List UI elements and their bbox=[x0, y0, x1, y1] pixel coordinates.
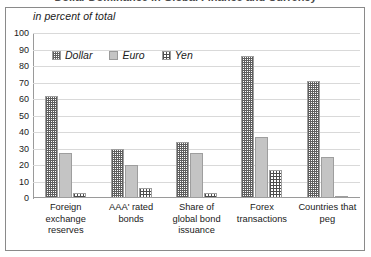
x-label-line: bonds bbox=[100, 214, 161, 226]
legend-item-euro[interactable]: Euro bbox=[109, 49, 144, 61]
x-label-line: reserves bbox=[35, 225, 96, 237]
legend-swatch-yen-icon bbox=[162, 51, 171, 60]
bar-euro-1 bbox=[125, 165, 138, 198]
y-tick-80: 80 bbox=[3, 61, 29, 71]
chart-title-text: Dollar Dominance in Global Finance and C… bbox=[54, 0, 316, 3]
y-tick-40: 40 bbox=[3, 127, 29, 137]
y-tick-10: 10 bbox=[3, 177, 29, 187]
y-tick-30: 30 bbox=[3, 144, 29, 154]
x-label-line: transactions bbox=[231, 214, 292, 226]
x-label-line: AAA' rated bbox=[100, 202, 161, 214]
chart-legend: DollarEuroYen bbox=[52, 49, 193, 61]
legend-swatch-euro-icon bbox=[109, 51, 118, 60]
x-label-4: Countries thatpeg bbox=[295, 202, 360, 250]
legend-label: Yen bbox=[175, 49, 193, 61]
gridline-100 bbox=[33, 33, 360, 34]
y-tick-70: 70 bbox=[3, 78, 29, 88]
bar-euro-0 bbox=[59, 153, 72, 198]
bar-euro-3 bbox=[255, 137, 268, 198]
x-label-line: exchange bbox=[35, 214, 96, 226]
legend-item-dollar[interactable]: Dollar bbox=[52, 49, 92, 61]
gridline-80 bbox=[33, 66, 360, 67]
x-label-1: AAA' ratedbonds bbox=[98, 202, 163, 250]
x-label-line: Share of bbox=[166, 202, 227, 214]
chart-title-clipped: Dollar Dominance in Global Finance and C… bbox=[0, 0, 371, 6]
bar-euro-4 bbox=[321, 157, 334, 198]
chart-subtitle: in percent of total bbox=[33, 10, 115, 22]
y-tick-60: 60 bbox=[3, 94, 29, 104]
x-label-3: Forextransactions bbox=[229, 202, 294, 250]
bar-dollar-1 bbox=[111, 149, 124, 199]
bar-yen-4 bbox=[335, 196, 348, 198]
x-label-line: Foreign bbox=[35, 202, 96, 214]
y-tick-50: 50 bbox=[3, 111, 29, 121]
legend-item-yen[interactable]: Yen bbox=[162, 49, 193, 61]
y-tick-20: 20 bbox=[3, 160, 29, 170]
bar-yen-2 bbox=[204, 193, 217, 198]
legend-label: Dollar bbox=[65, 49, 92, 61]
x-label-2: Share ofglobal bondissuance bbox=[164, 202, 229, 250]
bar-yen-3 bbox=[269, 170, 282, 198]
x-label-line: Countries that bbox=[297, 202, 358, 214]
x-label-line: Forex bbox=[231, 202, 292, 214]
x-label-0: Foreignexchangereserves bbox=[33, 202, 98, 250]
bar-dollar-3 bbox=[241, 56, 254, 198]
x-axis-labels: ForeignexchangereservesAAA' ratedbondsSh… bbox=[33, 202, 360, 250]
chart-figure: Dollar Dominance in Global Finance and C… bbox=[0, 0, 371, 257]
bar-dollar-2 bbox=[176, 142, 189, 198]
y-axis: 1009080706050403020100 bbox=[0, 33, 29, 199]
y-tick-90: 90 bbox=[3, 45, 29, 55]
x-label-line: global bond bbox=[166, 214, 227, 226]
x-label-line: peg bbox=[297, 214, 358, 226]
y-tick-0: 0 bbox=[3, 193, 29, 203]
x-label-line: issuance bbox=[166, 225, 227, 237]
bar-yen-1 bbox=[139, 188, 152, 198]
bar-dollar-4 bbox=[307, 81, 320, 198]
legend-swatch-dollar-icon bbox=[52, 51, 61, 60]
y-tick-100: 100 bbox=[3, 28, 29, 38]
bar-dollar-0 bbox=[45, 96, 58, 198]
legend-label: Euro bbox=[122, 49, 144, 61]
bar-euro-2 bbox=[190, 153, 203, 198]
bar-yen-0 bbox=[73, 193, 86, 198]
